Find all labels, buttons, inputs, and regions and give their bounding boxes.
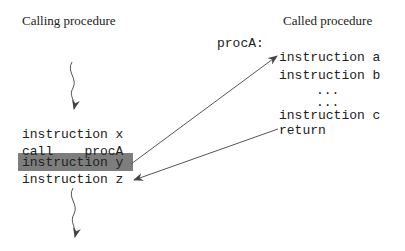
connector-layer xyxy=(0,0,405,251)
return-arrow xyxy=(134,129,278,180)
outgoing-flow-squiggle-icon xyxy=(71,188,75,237)
procedure-call-diagram: Calling procedure Called procedure instr… xyxy=(0,0,405,251)
call-arrow xyxy=(131,56,277,164)
incoming-flow-squiggle-icon xyxy=(70,62,74,109)
